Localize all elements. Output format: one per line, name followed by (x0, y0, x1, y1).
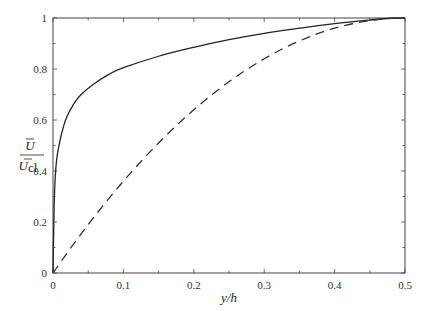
data-series (53, 18, 405, 273)
x-tick-label: 0.3 (257, 279, 271, 291)
y-tick-label: 1 (42, 12, 48, 24)
y-label-denominator: Ucl (19, 158, 38, 175)
laminar-dashed-curve (53, 18, 405, 273)
plot-border (53, 18, 405, 273)
y-tick-label: 0.6 (33, 114, 47, 126)
y-label-numerator: U (25, 138, 36, 153)
y-tick-label: 0.2 (33, 216, 47, 228)
axis-ticks (53, 18, 405, 273)
chart: 00.10.20.30.40.500.20.40.60.81 y/h U Ucl (0, 0, 426, 311)
x-tick-label: 0.2 (187, 279, 201, 291)
x-axis-label: y/h (219, 290, 237, 305)
turbulent-solid-curve (53, 18, 405, 273)
x-tick-label: 0.4 (328, 279, 342, 291)
y-tick-label: 0.8 (33, 63, 47, 75)
tick-labels: 00.10.20.30.40.500.20.40.60.81 (33, 12, 412, 291)
plot-frame (53, 18, 405, 273)
x-tick-label: 0 (50, 279, 56, 291)
x-tick-label: 0.1 (117, 279, 131, 291)
y-tick-label: 0 (42, 267, 48, 279)
x-tick-label: 0.5 (398, 279, 412, 291)
